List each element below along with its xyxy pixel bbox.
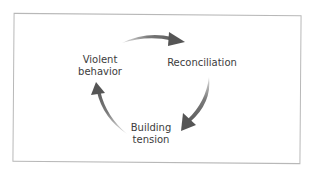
node-label-line: tension [120, 134, 182, 146]
node-violent-behavior: Violent behavior [70, 54, 130, 78]
curved-arrow-down-left-icon [181, 77, 209, 131]
node-building-tension: Building tension [120, 122, 182, 146]
node-label-line: Building [120, 122, 182, 134]
curved-arrow-right-icon [122, 32, 185, 46]
node-label-line: Violent [70, 54, 130, 66]
node-label-line: behavior [70, 66, 130, 78]
node-reconciliation: Reconciliation [162, 57, 242, 69]
node-label-line: Reconciliation [162, 57, 242, 69]
